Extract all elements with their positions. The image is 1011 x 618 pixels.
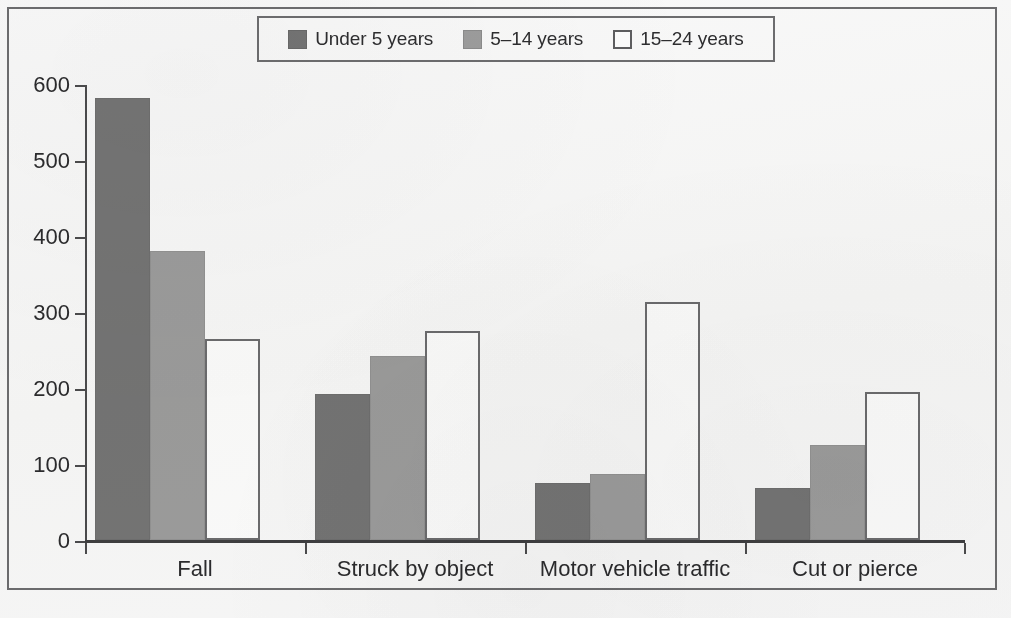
- chart-plot-area: Under 5 years 5–14 years 15–24 years 600…: [0, 0, 1011, 618]
- y-axis-label-400: 400: [8, 224, 70, 250]
- legend-label-5-14-years: 5–14 years: [490, 28, 583, 50]
- bar-5-14-years-motor-vehicle-traffic: [590, 474, 645, 540]
- medium-gray-swatch-icon: [463, 30, 482, 49]
- bar-under-5-years-cut-or-pierce: [755, 488, 810, 540]
- y-axis-label-0: 0: [8, 528, 70, 554]
- x-axis-label-struck-by-object: Struck by object: [305, 556, 525, 582]
- y-tick-mark-300: [75, 313, 86, 315]
- y-tick-mark-100: [75, 465, 86, 467]
- bar-5-14-years-struck-by-object: [370, 356, 425, 540]
- x-tick-mark-2: [525, 543, 527, 554]
- y-axis-label-600: 600: [8, 72, 70, 98]
- bar-5-14-years-fall: [150, 251, 205, 540]
- bar-under-5-years-struck-by-object: [315, 394, 370, 540]
- bar-under-5-years-fall: [95, 98, 150, 540]
- x-axis-label-motor-vehicle-traffic: Motor vehicle traffic: [525, 556, 745, 582]
- x-tick-mark-1: [305, 543, 307, 554]
- x-tick-mark-4: [964, 543, 966, 554]
- y-tick-mark-500: [75, 161, 86, 163]
- y-tick-mark-200: [75, 389, 86, 391]
- y-tick-mark-400: [75, 237, 86, 239]
- chart-legend: Under 5 years 5–14 years 15–24 years: [257, 16, 775, 62]
- legend-entry-under-5-years: Under 5 years: [288, 28, 433, 50]
- legend-entry-15-24-years: 15–24 years: [613, 28, 743, 50]
- legend-label-under-5-years: Under 5 years: [315, 28, 433, 50]
- legend-entry-5-14-years: 5–14 years: [463, 28, 583, 50]
- x-axis-label-cut-or-pierce: Cut or pierce: [745, 556, 965, 582]
- y-axis-label-200: 200: [8, 376, 70, 402]
- dark-gray-swatch-icon: [288, 30, 307, 49]
- bar-15-24-years-fall: [205, 339, 260, 540]
- bar-5-14-years-cut-or-pierce: [810, 445, 865, 540]
- x-tick-mark-0: [85, 543, 87, 554]
- y-axis-label-500: 500: [8, 148, 70, 174]
- bar-15-24-years-motor-vehicle-traffic: [645, 302, 700, 540]
- legend-label-15-24-years: 15–24 years: [640, 28, 743, 50]
- white-outline-swatch-icon: [613, 30, 632, 49]
- bar-15-24-years-struck-by-object: [425, 331, 480, 540]
- x-axis-label-fall: Fall: [85, 556, 305, 582]
- y-axis-label-100: 100: [8, 452, 70, 478]
- bar-15-24-years-cut-or-pierce: [865, 392, 920, 540]
- y-tick-mark-600: [75, 85, 86, 87]
- y-axis-label-300: 300: [8, 300, 70, 326]
- x-tick-mark-3: [745, 543, 747, 554]
- x-axis-line: [85, 540, 965, 543]
- bar-under-5-years-motor-vehicle-traffic: [535, 483, 590, 540]
